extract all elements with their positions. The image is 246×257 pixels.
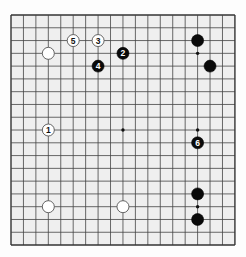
white-stone-icon bbox=[42, 47, 54, 59]
move-number-label: 2 bbox=[121, 48, 126, 58]
move-1-white-stone[interactable]: 1 bbox=[42, 124, 54, 136]
go-board-diagram: 123456 bbox=[0, 0, 246, 257]
black-stone[interactable] bbox=[204, 60, 216, 72]
black-stone-icon bbox=[192, 35, 204, 47]
white-stone-icon bbox=[117, 201, 129, 213]
move-number-label: 4 bbox=[96, 61, 101, 71]
white-stone[interactable] bbox=[117, 201, 129, 213]
go-board[interactable]: 123456 bbox=[0, 0, 246, 257]
star-point bbox=[196, 128, 199, 131]
white-stone[interactable] bbox=[42, 47, 54, 59]
move-6-black-stone[interactable]: 6 bbox=[192, 137, 204, 149]
move-number-label: 1 bbox=[46, 125, 51, 135]
move-3-white-stone[interactable]: 3 bbox=[92, 35, 104, 47]
black-stone[interactable] bbox=[192, 213, 204, 225]
black-stone-icon bbox=[192, 188, 204, 200]
move-number-label: 5 bbox=[71, 36, 76, 46]
move-number-label: 6 bbox=[195, 138, 200, 148]
move-4-black-stone[interactable]: 4 bbox=[92, 60, 104, 72]
black-stone[interactable] bbox=[192, 188, 204, 200]
black-stone-icon bbox=[204, 60, 216, 72]
move-number-label: 3 bbox=[96, 36, 101, 46]
star-point bbox=[196, 205, 199, 208]
white-stone-icon bbox=[42, 201, 54, 213]
black-stone[interactable] bbox=[192, 35, 204, 47]
move-2-black-stone[interactable]: 2 bbox=[117, 47, 129, 59]
black-stone-icon bbox=[192, 213, 204, 225]
star-point bbox=[196, 52, 199, 55]
white-stone[interactable] bbox=[42, 201, 54, 213]
star-point bbox=[121, 128, 124, 131]
move-5-white-stone[interactable]: 5 bbox=[67, 35, 79, 47]
